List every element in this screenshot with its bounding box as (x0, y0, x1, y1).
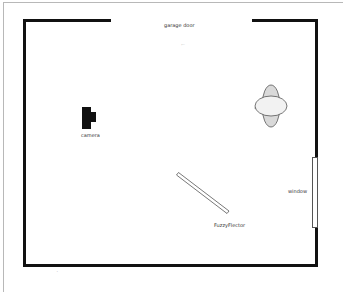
person-icon (254, 85, 287, 127)
camera-icon (82, 107, 96, 129)
reflector-icon (177, 173, 230, 214)
window-label: window (288, 189, 307, 194)
faint-mark: ⌐ (181, 42, 185, 47)
garage-door-label: garage door (164, 23, 195, 28)
reflector-label: FuzzyFlector (214, 223, 245, 228)
camera-label: camera (81, 133, 100, 138)
bottom-tick-mark: ˙ (56, 271, 59, 276)
